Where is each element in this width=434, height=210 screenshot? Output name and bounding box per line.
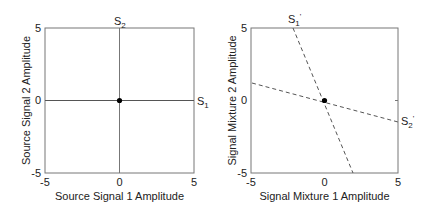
left-s1-label: S1 <box>197 95 209 110</box>
right-origin-point <box>322 98 327 103</box>
left-xtick-0: 0 <box>116 176 122 188</box>
right-ytick-5: 5 <box>241 22 247 34</box>
figure: 5 0 -5 -5 0 5 Source Signal 1 Amplitude … <box>0 0 434 210</box>
right-xtick-neg5: -5 <box>246 176 256 188</box>
left-origin-point <box>117 98 122 103</box>
right-xtick-0: 0 <box>321 176 327 188</box>
left-xlabel: Source Signal 1 Amplitude <box>55 190 184 202</box>
right-xlabel: Signal Mixture 1 Amplitude <box>259 190 389 202</box>
right-plot: 5 0 -5 -5 0 5 Signal Mixture 1 Amplitude… <box>226 12 415 202</box>
left-ylabel: Source Signal 2 Amplitude <box>20 36 32 165</box>
right-xtick-5: 5 <box>395 176 401 188</box>
left-xtick-5: 5 <box>191 176 197 188</box>
left-ytick-5: 5 <box>35 22 41 34</box>
left-ytick-0: 0 <box>35 94 41 106</box>
right-ylabel: Signal Mixture 2 Amplitude <box>226 35 238 165</box>
left-plot: 5 0 -5 -5 0 5 Source Signal 1 Amplitude … <box>20 15 209 202</box>
right-s2prime-label: S2' <box>401 114 415 130</box>
right-s1prime-label: S1' <box>288 12 302 28</box>
right-ytick-0: 0 <box>241 94 247 106</box>
left-xtick-neg5: -5 <box>40 176 50 188</box>
